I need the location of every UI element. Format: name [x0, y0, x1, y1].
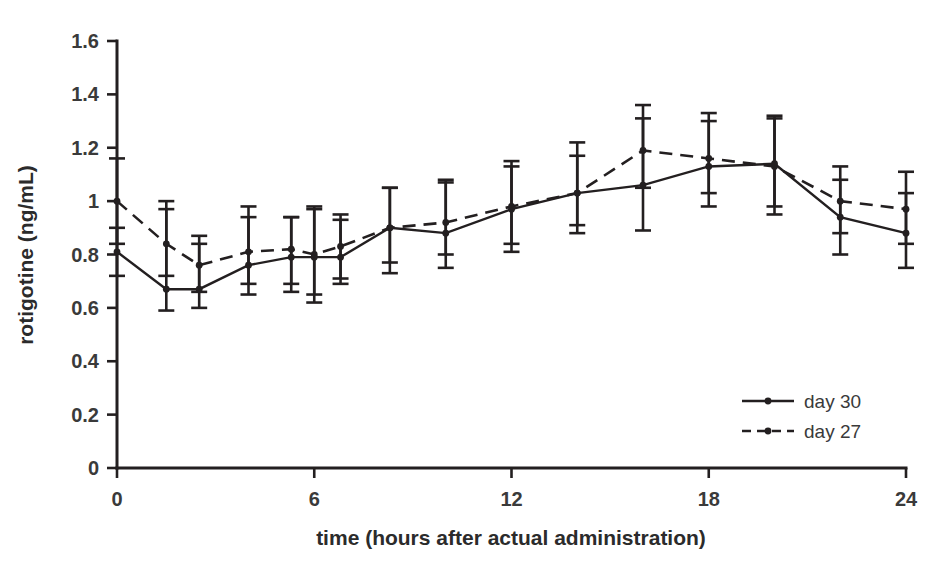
data-point-marker [311, 254, 318, 261]
data-point-marker [337, 243, 344, 250]
data-point-marker [508, 206, 515, 213]
y-tick-label: 0.4 [71, 350, 100, 372]
y-tick-label: 1.4 [71, 83, 100, 105]
y-axis-label: rotigotine (ng/mL) [14, 165, 37, 345]
data-point-marker [245, 248, 252, 255]
data-point-marker [163, 240, 170, 247]
data-point-marker [640, 182, 647, 189]
legend-marker-day-30 [765, 398, 772, 405]
data-point-marker [837, 198, 844, 205]
x-tick-label: 0 [111, 488, 122, 510]
axes-group [117, 41, 906, 468]
data-point-marker [574, 190, 581, 197]
data-point-marker [163, 286, 170, 293]
data-point-marker [386, 224, 393, 231]
x-tick-label: 18 [698, 488, 720, 510]
data-point-marker [903, 230, 910, 237]
x-tick-label: 6 [309, 488, 320, 510]
x-tick-label: 12 [500, 488, 522, 510]
data-point-marker [837, 214, 844, 221]
x-tick-label: 24 [895, 488, 918, 510]
rotigotine-pharmacokinetics-chart: 00.20.40.60.811.21.41.6 06121824 time (h… [0, 0, 946, 582]
x-axis-tick-labels: 06121824 [111, 488, 918, 510]
chart-canvas: 00.20.40.60.811.21.41.6 06121824 time (h… [0, 0, 946, 582]
data-point-marker [114, 248, 121, 255]
y-tick-label: 0 [88, 457, 99, 479]
y-axis-tick-labels: 00.20.40.60.811.21.41.6 [71, 30, 100, 479]
data-point-marker [196, 262, 203, 269]
y-tick-label: 1 [88, 190, 99, 212]
x-axis-label: time (hours after actual administration) [316, 526, 706, 549]
y-tick-label: 0.2 [71, 404, 99, 426]
y-tick-label: 0.8 [71, 244, 99, 266]
legend-label: day 27 [804, 421, 861, 442]
data-point-marker [640, 147, 647, 154]
data-point-marker [196, 286, 203, 293]
data-point-marker [442, 230, 449, 237]
data-point-marker [337, 254, 344, 261]
data-point-marker [771, 160, 778, 167]
legend-label: day 30 [804, 391, 861, 412]
y-tick-label: 1.6 [71, 30, 99, 52]
data-point-marker [114, 198, 121, 205]
data-point-marker [442, 219, 449, 226]
chart-legend: day 30day 27 [742, 391, 861, 442]
y-tick-label: 1.2 [71, 137, 99, 159]
error-bars-day-30 [109, 116, 914, 311]
data-point-marker [245, 262, 252, 269]
y-tick-label: 0.6 [71, 297, 99, 319]
data-point-marker [705, 155, 712, 162]
data-point-marker [288, 254, 295, 261]
legend-marker-day-27 [765, 428, 772, 435]
data-point-marker [903, 206, 910, 213]
data-point-marker [705, 163, 712, 170]
data-point-marker [288, 246, 295, 253]
